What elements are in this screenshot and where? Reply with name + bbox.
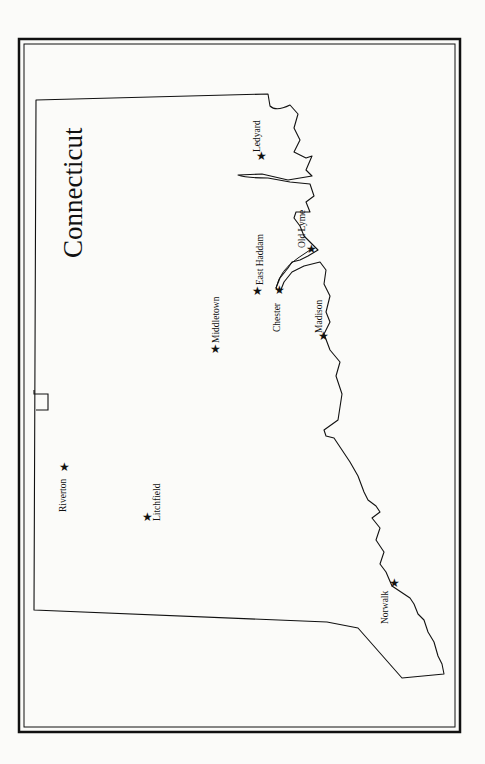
city-label-chester: Chester bbox=[272, 303, 282, 332]
city-label-east-haddam: East Haddam bbox=[255, 234, 265, 285]
city-label-old-lyme: Old Lyme bbox=[297, 210, 307, 248]
star-icon: ★ bbox=[306, 243, 317, 255]
star-icon: ★ bbox=[142, 511, 153, 523]
city-label-ledyard: Ledyard bbox=[252, 120, 262, 152]
star-icon: ★ bbox=[210, 343, 221, 355]
city-label-litchfield: Litchfield bbox=[152, 484, 162, 521]
map-title: Connecticut bbox=[58, 128, 89, 258]
city-label-norwalk: Norwalk bbox=[380, 591, 390, 624]
star-icon: ★ bbox=[274, 284, 285, 296]
map-outline bbox=[0, 0, 485, 764]
star-icon: ★ bbox=[59, 461, 70, 473]
star-icon: ★ bbox=[389, 577, 400, 589]
city-label-riverton: Riverton bbox=[58, 479, 68, 512]
city-label-madison: Madison bbox=[314, 300, 324, 333]
star-icon: ★ bbox=[252, 285, 263, 297]
city-label-middletown: Middletown bbox=[211, 297, 221, 343]
